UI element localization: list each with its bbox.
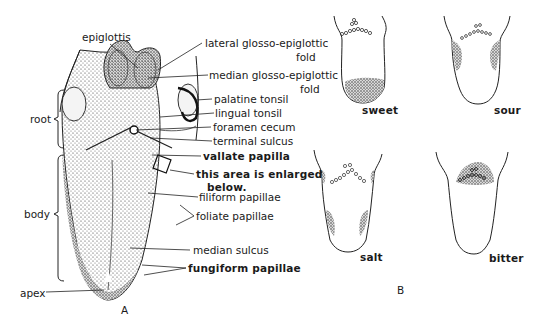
label-sweet: sweet xyxy=(362,104,398,116)
diagram-artwork xyxy=(0,0,545,328)
label-median-sulcus: median sulcus xyxy=(193,244,269,256)
label-bitter: bitter xyxy=(489,252,524,264)
label-foramen-cecum: foramen cecum xyxy=(213,121,295,133)
label-apex: apex xyxy=(20,287,46,299)
label-lingual-tonsil: lingual tonsil xyxy=(215,107,282,119)
label-terminal-sulcus: terminal sulcus xyxy=(213,135,293,147)
label-filiform-papillae: filiform papillae xyxy=(199,191,281,203)
label-median-fold-line2: fold xyxy=(300,83,320,95)
label-enlarged-area: this area is enlarged xyxy=(196,168,322,180)
taste-map-sweet xyxy=(334,16,386,103)
label-vallate-papilla: vallate papilla xyxy=(203,150,290,162)
label-salt: salt xyxy=(360,251,383,263)
label-root: root xyxy=(30,113,51,125)
taste-map-bitter xyxy=(436,152,508,254)
panel-label-a: A xyxy=(121,304,128,316)
label-lateral-glosso-epiglottic-fold: lateral glosso-epiglottic xyxy=(205,37,328,49)
label-fungiform-papillae: fungiform papillae xyxy=(188,262,301,274)
label-body: body xyxy=(24,208,50,220)
tongue-illustration xyxy=(60,41,198,300)
taste-map-sour xyxy=(444,16,510,104)
label-foliate-papillae: foliate papillae xyxy=(196,210,274,222)
label-epiglottis: epiglottis xyxy=(82,31,131,43)
label-sour: sour xyxy=(494,104,521,116)
taste-map-salt xyxy=(314,150,382,252)
label-lateral-fold-line2: fold xyxy=(296,51,316,63)
label-palatine-tonsil: palatine tonsil xyxy=(214,93,288,105)
panel-label-b: B xyxy=(397,284,404,296)
label-median-glosso-epiglottic-fold: median glosso-epiglottic xyxy=(209,69,338,81)
